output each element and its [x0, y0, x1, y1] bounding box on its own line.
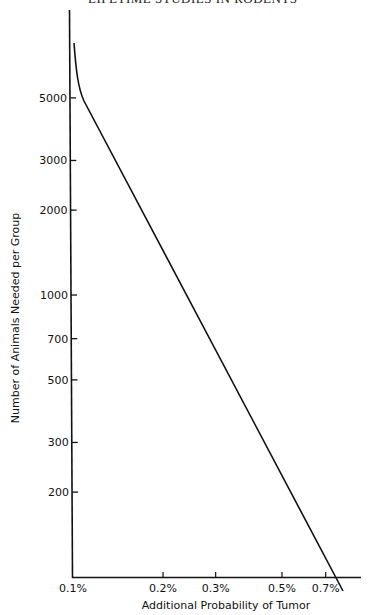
- y-tick-label: 500: [47, 374, 68, 387]
- x-tick-label: 0.5%: [268, 582, 296, 595]
- x-tick-label: 0.7%: [312, 582, 340, 595]
- x-tick-label: 0.2%: [149, 582, 177, 595]
- y-tick-label: 5000: [39, 92, 67, 105]
- y-axis: [70, 10, 73, 578]
- x-tick-label: 0.3%: [202, 582, 230, 595]
- y-tick-label: 3000: [39, 154, 67, 167]
- y-tick-label: 1000: [40, 289, 68, 302]
- x-axis-title: Additional Probability of Tumor: [142, 599, 311, 612]
- y-tick-label: 300: [48, 436, 69, 449]
- data-line: [74, 43, 343, 591]
- y-tick-label: 700: [47, 333, 68, 346]
- x-ticks: 0.1%0.2%0.3%0.5%0.7%: [59, 572, 340, 595]
- y-tick-label: 2000: [40, 204, 68, 217]
- y-axis-title: Number of Animals Needed per Group: [9, 213, 22, 423]
- chart: 5000300020001000700500300200 0.1%0.2%0.3…: [0, 0, 368, 615]
- y-tick-label: 200: [48, 486, 69, 499]
- x-tick-label: 0.1%: [59, 582, 87, 595]
